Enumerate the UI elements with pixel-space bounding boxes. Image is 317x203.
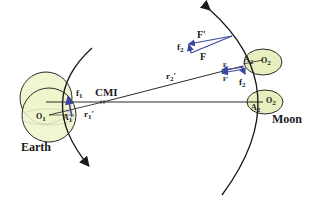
cmi-label: CMI (95, 86, 118, 98)
inset-F-prime-label: F′ (197, 29, 206, 40)
diagram-canvas: Earth Moon CMI O1 A1 f1 r1′ r2′ A2 O2 O2… (0, 0, 317, 203)
orbital-diagram: Earth Moon CMI O1 A1 f1 r1′ r2′ A2 O2 O2… (0, 0, 317, 203)
inset-F-label: F (200, 51, 206, 62)
moon-F-prime-label: F′ (223, 76, 229, 82)
inset-F-prime-vector (189, 36, 232, 44)
moon-f2-label: f2 (239, 77, 246, 89)
earth-force-label: f1 (76, 88, 83, 100)
inset-f2-label: f2 (177, 42, 184, 54)
inset-force-triangle (189, 36, 232, 53)
earth-radius-label: r1′ (84, 109, 94, 121)
moon-F-label: F (223, 62, 227, 68)
moon-label: Moon (272, 112, 302, 126)
earth-label: Earth (21, 140, 51, 154)
moon-radius-label: r2′ (166, 71, 176, 83)
inset-f2-vector (189, 45, 191, 53)
